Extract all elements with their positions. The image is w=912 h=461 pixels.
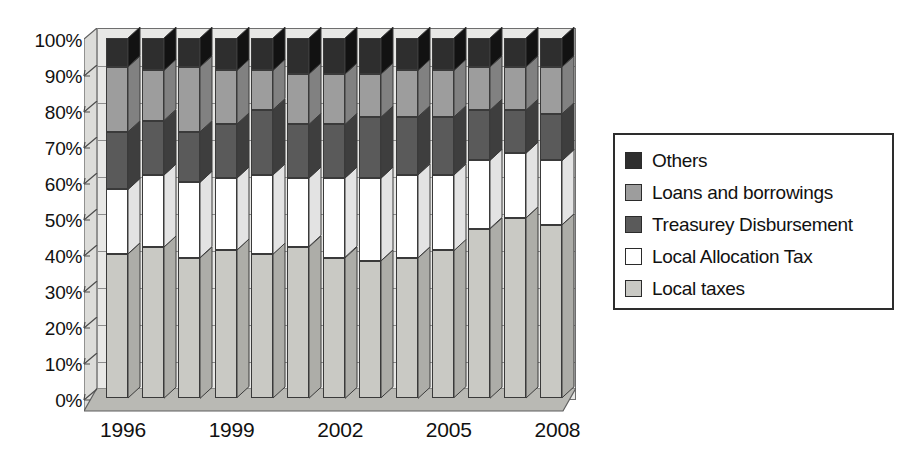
bar-side-segment [309,27,321,74]
bar-group[interactable] [540,38,575,398]
legend-swatch-icon [625,184,642,201]
bar-segment[interactable] [468,110,490,160]
bar-side-face [526,38,538,398]
bar-group[interactable] [251,38,286,398]
legend-item[interactable]: Loans and borrowings [625,176,892,208]
bar-side-segment [345,167,357,257]
bar-segment[interactable] [359,261,381,398]
bar-segment[interactable] [359,178,381,261]
bar-segment[interactable] [432,117,454,175]
bar-segment[interactable] [142,70,164,120]
bar-segment[interactable] [396,38,418,70]
bar-segment[interactable] [251,175,273,254]
bar-group[interactable] [359,38,394,398]
bar-group[interactable] [432,38,467,398]
legend-item[interactable]: Local taxes [625,272,892,304]
bar-segment[interactable] [323,258,345,398]
bar-segment[interactable] [396,175,418,258]
bar-segment[interactable] [106,132,128,190]
bar-segment[interactable] [540,160,562,225]
bar-segment[interactable] [178,67,200,132]
bar-segment[interactable] [251,38,273,70]
bar-segment[interactable] [215,124,237,178]
bar-segment[interactable] [323,178,345,257]
bar-segment[interactable] [142,38,164,70]
bar-front-face [323,38,345,398]
bar-segment[interactable] [432,70,454,117]
bar-segment[interactable] [359,74,381,117]
bar-segment[interactable] [215,38,237,70]
bar-segment[interactable] [142,121,164,175]
bar-segment[interactable] [251,254,273,398]
bar-segment[interactable] [323,124,345,178]
legend-item[interactable]: Others [625,144,892,176]
bar-segment[interactable] [504,218,526,398]
bar-segment[interactable] [178,182,200,258]
legend-item[interactable]: Treasurey Disbursement [625,208,892,240]
bar-group[interactable] [287,38,322,398]
bar-segment[interactable] [396,258,418,398]
bar-segment[interactable] [142,175,164,247]
bar-side-segment [128,27,140,67]
y-axis-tick-label: 20% [20,319,82,338]
bar-segment[interactable] [287,178,309,246]
bar-segment[interactable] [540,38,562,67]
bar-segment[interactable] [468,38,490,67]
bar-segment[interactable] [540,67,562,114]
bar-segment[interactable] [504,110,526,153]
bar-segment[interactable] [215,178,237,250]
bar-segment[interactable] [178,38,200,67]
bar-segment[interactable] [106,189,128,254]
bar-segment[interactable] [251,110,273,175]
bar-group[interactable] [106,38,141,398]
bar-segment[interactable] [359,117,381,178]
bar-side-face [273,38,285,398]
bar-segment[interactable] [178,132,200,182]
legend-item[interactable]: Local Allocation Tax [625,240,892,272]
bar-segment[interactable] [432,250,454,398]
bar-side-segment [237,167,249,250]
bar-segment[interactable] [106,254,128,398]
bar-segment[interactable] [504,67,526,110]
bar-segment[interactable] [287,247,309,398]
bar-group[interactable] [468,38,503,398]
bar-segment[interactable] [504,38,526,67]
y-axis-tick-mark [83,389,98,400]
bar-segment[interactable] [323,38,345,74]
bar-front-face [106,38,128,398]
bar-segment[interactable] [142,247,164,398]
bar-group[interactable] [178,38,213,398]
bar-group[interactable] [142,38,177,398]
legend-swatch-icon [625,216,642,233]
bar-side-segment [164,236,176,398]
bar-segment[interactable] [323,74,345,124]
bar-segment[interactable] [359,38,381,74]
bar-segment[interactable] [287,124,309,178]
bar-segment[interactable] [396,117,418,175]
bar-segment[interactable] [251,70,273,110]
bar-segment[interactable] [432,175,454,251]
bar-segment[interactable] [468,229,490,398]
bar-segment[interactable] [178,258,200,398]
plot-area [84,28,576,420]
bar-segment[interactable] [106,67,128,132]
y-axis-tick-label: 0% [20,391,82,410]
bar-segment[interactable] [215,250,237,398]
bar-group[interactable] [323,38,358,398]
bar-segment[interactable] [287,74,309,124]
bar-segment[interactable] [396,70,418,117]
bar-segment[interactable] [468,160,490,228]
bar-segment[interactable] [106,38,128,67]
bar-segment[interactable] [432,38,454,70]
bar-segment[interactable] [287,38,309,74]
bar-segment[interactable] [540,225,562,398]
y-axis-tick-mark [83,209,98,220]
bar-group[interactable] [396,38,431,398]
bar-group[interactable] [504,38,539,398]
bar-group[interactable] [215,38,250,398]
bar-segment[interactable] [504,153,526,218]
bar-side-segment [273,164,285,254]
bar-segment[interactable] [215,70,237,124]
bar-segment[interactable] [468,67,490,110]
bar-segment[interactable] [540,114,562,161]
